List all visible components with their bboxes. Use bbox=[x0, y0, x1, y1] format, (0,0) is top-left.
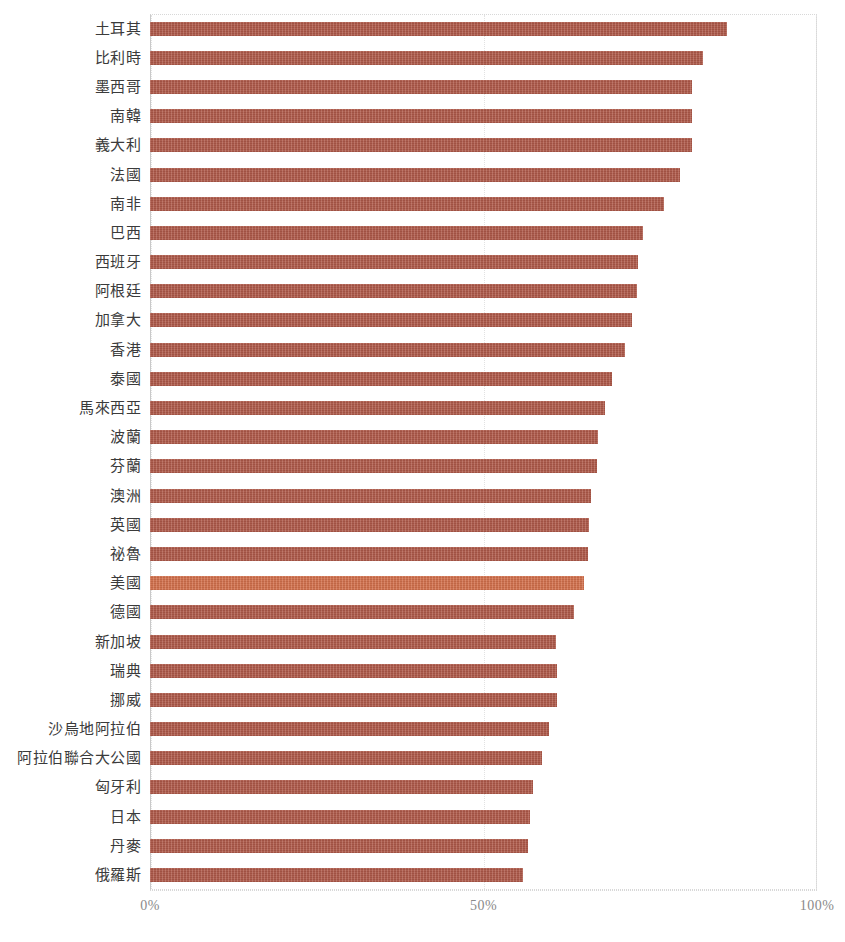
bar-track bbox=[150, 72, 817, 101]
bar bbox=[150, 693, 557, 707]
category-label: 波蘭 bbox=[110, 430, 150, 445]
x-tick-label: 50% bbox=[470, 898, 497, 914]
bar bbox=[150, 343, 625, 357]
category-label: 澳洲 bbox=[110, 488, 150, 503]
bar bbox=[150, 226, 643, 240]
x-axis-ticks: 0%50%100% bbox=[0, 898, 845, 928]
bar-row: 匈牙利 bbox=[0, 773, 845, 802]
category-label: 日本 bbox=[110, 809, 150, 824]
bar bbox=[150, 372, 612, 386]
bar-track bbox=[150, 131, 817, 160]
bar-track bbox=[150, 627, 817, 656]
category-label: 沙烏地阿拉伯 bbox=[48, 722, 150, 737]
bar-track bbox=[150, 248, 817, 277]
bar bbox=[150, 635, 556, 649]
bar-row: 土耳其 bbox=[0, 14, 845, 43]
category-label: 南韓 bbox=[110, 109, 150, 124]
bar bbox=[150, 51, 703, 65]
bar-rows: 土耳其比利時墨西哥南韓義大利法國南非巴西西班牙阿根廷加拿大香港泰國馬來西亞波蘭芬… bbox=[0, 14, 845, 890]
bar bbox=[150, 80, 692, 94]
bar-row: 馬來西亞 bbox=[0, 393, 845, 422]
bar bbox=[150, 664, 557, 678]
bar-row: 南韓 bbox=[0, 102, 845, 131]
bar bbox=[150, 109, 692, 123]
bar-track bbox=[150, 335, 817, 364]
bar-chart: 土耳其比利時墨西哥南韓義大利法國南非巴西西班牙阿根廷加拿大香港泰國馬來西亞波蘭芬… bbox=[0, 0, 845, 942]
bar-row: 巴西 bbox=[0, 218, 845, 247]
category-label: 比利時 bbox=[95, 50, 151, 65]
bar bbox=[150, 868, 523, 882]
x-axis-baseline bbox=[150, 890, 817, 891]
bar-row: 墨西哥 bbox=[0, 72, 845, 101]
bar-row: 日本 bbox=[0, 802, 845, 831]
bar-row: 俄羅斯 bbox=[0, 860, 845, 889]
bar-track bbox=[150, 452, 817, 481]
bar-row: 加拿大 bbox=[0, 306, 845, 335]
category-label: 馬來西亞 bbox=[79, 401, 150, 416]
x-tick-label: 0% bbox=[140, 898, 160, 914]
bar-row: 阿根廷 bbox=[0, 277, 845, 306]
bar bbox=[150, 430, 598, 444]
bar bbox=[150, 284, 637, 298]
category-label: 巴西 bbox=[110, 225, 150, 240]
bar-track bbox=[150, 656, 817, 685]
bar-track bbox=[150, 744, 817, 773]
bar-track bbox=[150, 423, 817, 452]
bar-track bbox=[150, 510, 817, 539]
category-label: 阿根廷 bbox=[95, 284, 151, 299]
bar-row: 德國 bbox=[0, 598, 845, 627]
x-tick-label: 100% bbox=[800, 898, 835, 914]
category-label: 德國 bbox=[110, 605, 150, 620]
bar bbox=[150, 459, 597, 473]
category-label: 新加坡 bbox=[95, 634, 151, 649]
category-label: 義大利 bbox=[95, 138, 151, 153]
bar-row: 瑞典 bbox=[0, 656, 845, 685]
bar bbox=[150, 197, 664, 211]
bar-row: 波蘭 bbox=[0, 423, 845, 452]
bar-track bbox=[150, 685, 817, 714]
category-label: 阿拉伯聯合大公國 bbox=[17, 751, 150, 766]
category-label: 瑞典 bbox=[110, 663, 150, 678]
bar-track bbox=[150, 831, 817, 860]
bar bbox=[150, 780, 533, 794]
bar-row: 泰國 bbox=[0, 364, 845, 393]
bar bbox=[150, 489, 591, 503]
bar-row: 沙烏地阿拉伯 bbox=[0, 715, 845, 744]
bar-track bbox=[150, 569, 817, 598]
category-label: 美國 bbox=[110, 576, 150, 591]
bar-track bbox=[150, 14, 817, 43]
bar-track bbox=[150, 160, 817, 189]
category-label: 香港 bbox=[110, 342, 150, 357]
bar bbox=[150, 313, 632, 327]
bar-row: 英國 bbox=[0, 510, 845, 539]
bar bbox=[150, 168, 680, 182]
category-label: 加拿大 bbox=[95, 313, 151, 328]
bar-row: 比利時 bbox=[0, 43, 845, 72]
bar-track bbox=[150, 598, 817, 627]
category-label: 南非 bbox=[110, 196, 150, 211]
bar-row: 澳洲 bbox=[0, 481, 845, 510]
bar-track bbox=[150, 773, 817, 802]
bar bbox=[150, 810, 530, 824]
bar-track bbox=[150, 218, 817, 247]
bar-track bbox=[150, 802, 817, 831]
category-label: 丹麥 bbox=[110, 838, 150, 853]
bar bbox=[150, 722, 549, 736]
bar-row: 南非 bbox=[0, 189, 845, 218]
bar bbox=[150, 839, 528, 853]
bar-row: 新加坡 bbox=[0, 627, 845, 656]
bar-track bbox=[150, 393, 817, 422]
category-label: 墨西哥 bbox=[95, 79, 151, 94]
bar-row: 西班牙 bbox=[0, 248, 845, 277]
bar-track bbox=[150, 539, 817, 568]
bar bbox=[150, 255, 638, 269]
category-label: 英國 bbox=[110, 517, 150, 532]
bar bbox=[150, 22, 727, 36]
bar-track bbox=[150, 364, 817, 393]
bar-row: 丹麥 bbox=[0, 831, 845, 860]
bar bbox=[150, 751, 542, 765]
bar-row: 挪威 bbox=[0, 685, 845, 714]
category-label: 俄羅斯 bbox=[95, 868, 151, 883]
bar-row: 法國 bbox=[0, 160, 845, 189]
bar-track bbox=[150, 715, 817, 744]
